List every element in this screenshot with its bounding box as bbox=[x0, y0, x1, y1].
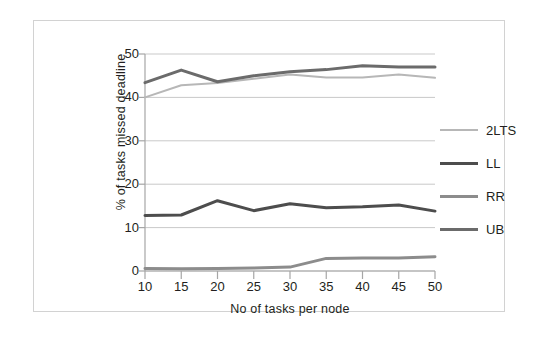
y-axis-tick-labels: 01020304050 bbox=[97, 54, 139, 271]
legend-line-swatch-rr bbox=[438, 189, 480, 203]
series-line-2lts bbox=[145, 74, 435, 97]
legend-label: LL bbox=[480, 157, 500, 170]
y-tick-label: 10 bbox=[105, 221, 139, 234]
legend-entry-ub[interactable]: UB bbox=[438, 220, 534, 238]
plot-area bbox=[145, 54, 435, 271]
legend-entry-ll[interactable]: LL bbox=[438, 154, 534, 172]
x-tick-label: 20 bbox=[201, 280, 235, 293]
x-tick-label: 15 bbox=[164, 280, 198, 293]
legend-label: UB bbox=[480, 223, 504, 236]
legend-line-swatch-2lts bbox=[438, 123, 480, 137]
x-tick-label: 40 bbox=[346, 280, 380, 293]
legend-line-swatch-ll bbox=[438, 156, 480, 170]
legend-entry-2lts[interactable]: 2LTS bbox=[438, 121, 534, 139]
series-line-ll bbox=[145, 201, 435, 216]
legend-label: RR bbox=[480, 190, 505, 203]
x-tick-label: 25 bbox=[237, 280, 271, 293]
x-tick-label: 50 bbox=[418, 280, 452, 293]
legend-label: 2LTS bbox=[480, 124, 516, 137]
series-line-rr bbox=[145, 257, 435, 269]
x-tick-label: 35 bbox=[309, 280, 343, 293]
plot-svg bbox=[145, 54, 435, 271]
y-tick-label: 30 bbox=[105, 134, 139, 147]
x-axis-title: No of tasks per node bbox=[145, 302, 435, 316]
chart-legend: 2LTSLLRRUB bbox=[438, 121, 534, 249]
y-tick-label: 0 bbox=[105, 264, 139, 277]
chart-frame: % of tasks missed deadline 01020304050 1… bbox=[33, 20, 505, 312]
y-tick-label: 40 bbox=[105, 90, 139, 103]
x-axis-tick-labels: 101520253035404550 bbox=[145, 280, 435, 298]
legend-line-swatch-ub bbox=[438, 222, 480, 236]
x-tick-label: 10 bbox=[128, 280, 162, 293]
chart-screenshot: % of tasks missed deadline 01020304050 1… bbox=[0, 0, 535, 337]
x-tick-label: 30 bbox=[273, 280, 307, 293]
y-tick-label: 50 bbox=[105, 47, 139, 60]
x-tick-label: 45 bbox=[382, 280, 416, 293]
y-tick-label: 20 bbox=[105, 177, 139, 190]
legend-entry-rr[interactable]: RR bbox=[438, 187, 534, 205]
